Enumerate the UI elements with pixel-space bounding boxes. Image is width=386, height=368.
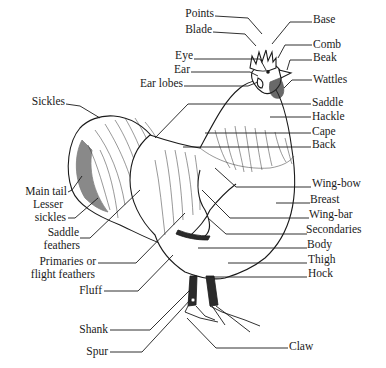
- label-breast: Breast: [310, 193, 340, 205]
- label-claw: Claw: [289, 340, 314, 352]
- leader-beak: [287, 60, 312, 70]
- label-primaries-1: Primaries or: [39, 255, 96, 267]
- eye-shape: [266, 70, 270, 74]
- beak-shape: [279, 70, 291, 78]
- label-blade: Blade: [185, 23, 212, 35]
- spur-shape: [191, 298, 195, 302]
- label-back: Back: [312, 138, 336, 150]
- label-saddle-feathers-2: feathers: [44, 239, 81, 251]
- label-lesser-sickles-2: sickles: [35, 211, 67, 223]
- leader-shank: [110, 290, 190, 330]
- comb-shape: [250, 50, 276, 71]
- label-saddle: Saddle: [312, 96, 343, 108]
- label-wattles: Wattles: [313, 73, 348, 85]
- label-comb: Comb: [313, 38, 341, 50]
- label-body: Body: [307, 238, 332, 251]
- label-eye: Eye: [175, 49, 193, 62]
- leader-comb: [278, 45, 312, 58]
- leader-ear: [191, 72, 258, 76]
- leader-blade: [213, 32, 256, 46]
- leader-sickles: [66, 104, 100, 118]
- label-main-tail: Main tail: [25, 185, 67, 197]
- leader-wattles: [284, 80, 312, 88]
- label-saddle-feathers-1: Saddle: [48, 226, 79, 238]
- label-base: Base: [313, 13, 335, 25]
- leader-spur: [110, 299, 191, 352]
- diagram-canvas: Points Blade Eye Ear Ear lobes Sickles M…: [0, 0, 386, 368]
- label-cape: Cape: [312, 125, 336, 138]
- leg-right: [206, 276, 218, 306]
- label-ear-lobes: Ear lobes: [140, 77, 184, 89]
- label-hackle: Hackle: [312, 110, 345, 122]
- label-spur: Spur: [86, 345, 108, 358]
- labels-right: Base Comb Beak Wattles Saddle Hackle Cap…: [289, 13, 362, 352]
- label-sickles: Sickles: [32, 95, 66, 107]
- label-lesser-sickles-1: Lesser: [33, 198, 63, 210]
- label-thigh: Thigh: [308, 253, 336, 266]
- label-wing-bow: Wing-bow: [312, 177, 361, 190]
- label-wing-bar: Wing-bar: [309, 208, 353, 221]
- label-ear: Ear: [174, 63, 190, 75]
- label-fluff: Fluff: [79, 284, 102, 296]
- label-beak: Beak: [313, 51, 337, 63]
- label-secondaries: Secondaries: [306, 223, 362, 235]
- leader-points: [215, 16, 262, 34]
- label-shank: Shank: [79, 323, 108, 335]
- rooster-illustration: [68, 50, 294, 332]
- rooster-diagram: Points Blade Eye Ear Ear lobes Sickles M…: [0, 0, 386, 368]
- leader-base: [272, 22, 312, 44]
- label-primaries-2: flight feathers: [31, 268, 96, 281]
- label-hock: Hock: [308, 267, 333, 279]
- wattles-shape: [269, 78, 283, 98]
- label-points: Points: [185, 7, 214, 19]
